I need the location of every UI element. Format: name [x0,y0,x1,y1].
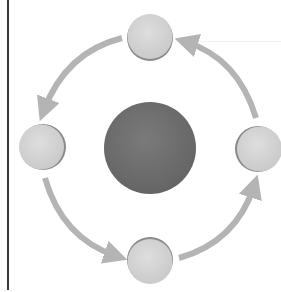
arrow-top-to-left [44,38,122,110]
node-right [235,126,281,172]
arrow-left-to-bottom [45,178,116,256]
node-left [19,124,66,170]
node-bottom [127,237,173,284]
arrow-right-to-top [186,42,256,118]
arrow-bottom-to-right [179,186,254,258]
node-top [127,14,173,61]
cycle-diagram [0,0,281,292]
center-circle [104,102,196,194]
